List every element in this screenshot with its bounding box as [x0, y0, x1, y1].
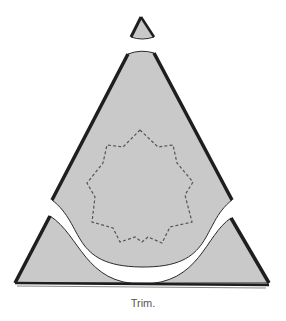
- upper-piece: [52, 51, 232, 267]
- trim-diagram: [0, 0, 286, 321]
- tip-piece: [131, 17, 154, 39]
- figure-caption: Trim.: [0, 297, 286, 309]
